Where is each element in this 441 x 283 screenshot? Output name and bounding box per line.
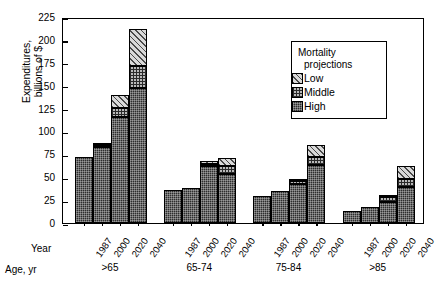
y-tick-mark — [63, 64, 68, 65]
plot-area: Mortality projections Low Middle High — [62, 18, 424, 224]
x-tick-mark — [406, 223, 407, 226]
bar-chart: Expenditures, billions of $ Mortality pr… — [0, 0, 441, 283]
age-row-label: Age, yr — [5, 264, 37, 275]
bar[interactable] — [93, 144, 111, 223]
x-tick-mark — [388, 223, 389, 226]
x-tick-label-year: 2020 — [219, 236, 239, 259]
bar[interactable] — [397, 166, 415, 223]
bar[interactable] — [271, 191, 289, 223]
bar[interactable] — [75, 157, 93, 223]
x-tick-mark — [352, 223, 353, 226]
y-tick-mark — [63, 202, 68, 203]
x-tick-mark — [280, 223, 281, 226]
y-tick-label: 125 — [25, 105, 55, 115]
bar-segment-high — [253, 196, 271, 223]
x-tick-mark — [262, 223, 263, 226]
x-tick-label-year: 2000 — [380, 236, 400, 259]
legend-swatch-low-icon — [292, 73, 303, 84]
x-tick-mark — [84, 223, 85, 226]
bar-segment-high — [397, 187, 415, 223]
legend-title-line1: Mortality — [298, 47, 336, 58]
bar-segment-low — [289, 179, 307, 181]
bar[interactable] — [200, 161, 218, 223]
y-tick-mark — [63, 179, 68, 180]
bar-segment-middle — [289, 181, 307, 184]
x-tick-label-year: 2040 — [416, 236, 436, 259]
x-tick-label-year: 1987 — [183, 236, 203, 259]
bar-segment-middle — [307, 157, 325, 165]
y-tick-mark — [63, 133, 68, 134]
bar-segment-high — [307, 165, 325, 223]
bar-segment-low — [129, 29, 147, 67]
bar-group — [164, 19, 236, 223]
bar[interactable] — [289, 179, 307, 223]
bar[interactable] — [182, 188, 200, 223]
legend-title: Mortality projections — [298, 47, 380, 70]
bar[interactable] — [218, 158, 236, 223]
bar[interactable] — [343, 211, 361, 223]
x-group-label-age: 75-84 — [252, 262, 324, 273]
bar[interactable] — [164, 190, 182, 223]
bar-segment-low — [379, 195, 397, 198]
bar-segment-middle — [200, 164, 218, 167]
bar-segment-middle — [218, 166, 236, 173]
y-tick-mark — [63, 225, 68, 226]
bar-segment-high — [218, 174, 236, 223]
bar-segment-low — [218, 158, 236, 166]
bar[interactable] — [111, 95, 129, 223]
x-tick-label-year: 2000 — [201, 236, 221, 259]
x-tick-label-year: 2020 — [308, 236, 328, 259]
legend-title-line2: projections — [298, 59, 380, 71]
y-tick-mark — [63, 110, 68, 111]
bar-segment-high — [75, 157, 93, 223]
x-tick-mark — [138, 223, 139, 226]
bar-segment-middle — [379, 197, 397, 202]
y-tick-label: 0 — [25, 219, 55, 229]
x-tick-label-year: 1987 — [94, 236, 114, 259]
y-tick-label: 50 — [25, 173, 55, 183]
x-tick-mark — [298, 223, 299, 226]
x-tick-label-year: 2000 — [290, 236, 310, 259]
x-tick-mark — [370, 223, 371, 226]
legend-label-middle: Middle — [304, 87, 335, 98]
year-row-label: Year — [31, 243, 51, 254]
bar[interactable] — [253, 196, 271, 223]
legend: Mortality projections Low Middle High — [291, 41, 387, 119]
x-tick-label-year: 1987 — [362, 236, 382, 259]
y-tick-label: 200 — [25, 36, 55, 46]
bar[interactable] — [361, 207, 379, 223]
bar-segment-low — [397, 166, 415, 179]
bar-segment-high — [200, 166, 218, 223]
x-tick-label-year: 2040 — [148, 236, 168, 259]
bar[interactable] — [379, 195, 397, 223]
bar-segment-middle — [93, 145, 111, 147]
bar-segment-high — [289, 184, 307, 223]
bar-segment-low — [200, 161, 218, 164]
x-tick-mark — [102, 223, 103, 226]
bar[interactable] — [307, 145, 325, 223]
legend-item-high: High — [298, 101, 380, 112]
x-tick-label-year: 2020 — [130, 236, 150, 259]
x-tick-label-year: 2040 — [237, 236, 257, 259]
bar[interactable] — [129, 29, 147, 223]
x-tick-label-year: 1987 — [272, 236, 292, 259]
y-tick-label: 75 — [25, 150, 55, 160]
x-tick-mark — [209, 223, 210, 226]
x-group-label-age: 65-74 — [163, 262, 235, 273]
x-tick-mark — [173, 223, 174, 226]
x-tick-label-year: 2020 — [398, 236, 418, 259]
bar-segment-high — [111, 117, 129, 223]
bar-segment-low — [111, 95, 129, 108]
bar-segment-low — [93, 143, 111, 145]
legend-label-high: High — [304, 101, 326, 112]
bar-segment-high — [164, 190, 182, 223]
legend-swatch-high-icon — [292, 101, 303, 112]
bar-segment-middle — [129, 66, 147, 87]
bar-segment-middle — [111, 108, 129, 117]
y-tick-label: 175 — [25, 59, 55, 69]
legend-item-middle: Middle — [298, 87, 380, 98]
y-tick-label: 150 — [25, 82, 55, 92]
bar-segment-high — [129, 88, 147, 224]
y-tick-label: 225 — [25, 13, 55, 23]
bar-segment-middle — [397, 179, 415, 187]
